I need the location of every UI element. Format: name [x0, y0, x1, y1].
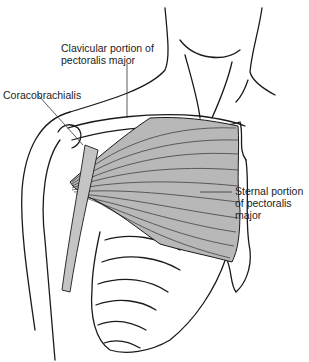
rib-4 — [96, 300, 156, 310]
label-coracobrachialis: Coracobrachialis — [3, 89, 81, 101]
sternocleidomastoid-right — [212, 62, 232, 118]
jaw-line — [180, 40, 240, 57]
pectoralis-major — [70, 117, 240, 262]
rib-6 — [104, 341, 140, 348]
arm-inner — [43, 140, 60, 360]
label-clavicular-portion: Clavicular portion of pectoralis major — [61, 42, 154, 66]
label-line: of pectoralis — [235, 197, 292, 209]
sternocleidomastoid-left — [185, 55, 200, 118]
shoulder-outer — [22, 112, 70, 330]
neck-outline-right — [250, 8, 275, 95]
coracobrachialis — [62, 145, 98, 292]
trapezius-line — [236, 80, 248, 102]
illustration — [0, 0, 309, 362]
rib-2 — [102, 257, 180, 270]
anatomy-figure: Clavicular portion of pectoralis major C… — [0, 0, 309, 362]
label-line: Sternal portion — [235, 185, 303, 197]
acromion — [58, 125, 81, 148]
leader-coracobrachialis — [38, 95, 83, 145]
label-line: Coracobrachialis — [3, 89, 81, 101]
label-line: pectoralis major — [61, 54, 135, 66]
label-line: major — [235, 209, 261, 221]
rib-5 — [98, 321, 146, 330]
label-line: Clavicular portion of — [61, 42, 154, 54]
label-sternal-portion: Sternal portion of pectoralis major — [235, 185, 303, 221]
rib-3 — [98, 279, 168, 292]
